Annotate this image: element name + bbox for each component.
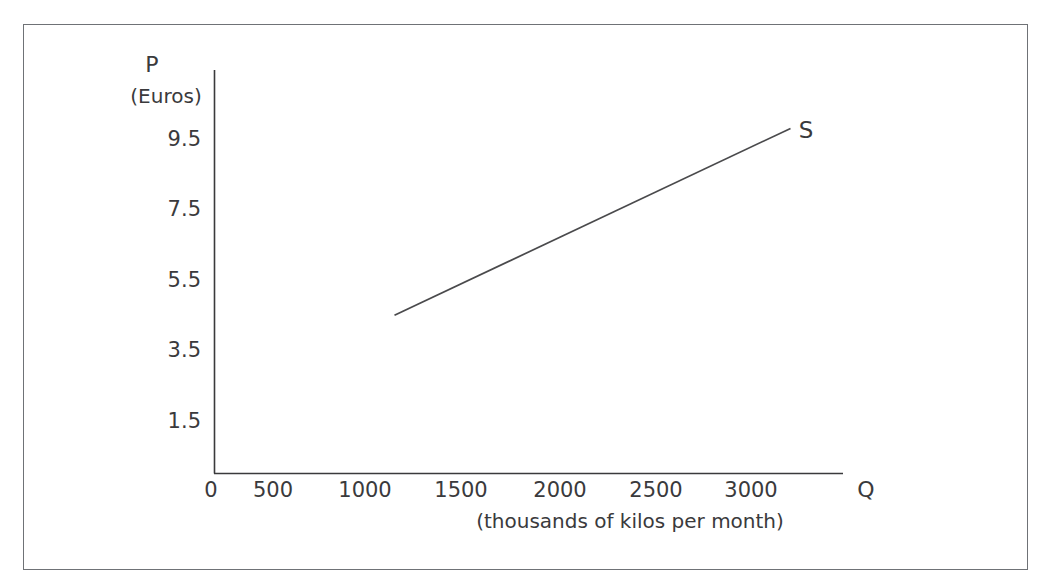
y-tick-label-9-5: 9.5	[141, 127, 201, 151]
figure-root: P (Euros) 9.5 7.5 5.5 3.5 1.5 0 500 1000…	[0, 0, 1050, 587]
x-tick-label-500: 500	[253, 478, 293, 502]
x-axis-title: Q	[857, 477, 874, 502]
x-tick-label-1000: 1000	[338, 478, 391, 502]
supply-curve-label: S	[799, 117, 814, 143]
y-tick-label-7-5: 7.5	[141, 197, 201, 221]
y-axis-units: (Euros)	[130, 84, 201, 108]
y-tick-label-3-5: 3.5	[141, 338, 201, 362]
x-tick-label-2500: 2500	[629, 478, 682, 502]
y-tick-label-1-5: 1.5	[141, 409, 201, 433]
x-tick-label-1500: 1500	[434, 478, 487, 502]
x-tick-label-2000: 2000	[533, 478, 586, 502]
y-axis-title: P	[145, 52, 158, 77]
y-tick-label-5-5: 5.5	[141, 268, 201, 292]
x-axis-units: (thousands of kilos per month)	[476, 509, 784, 533]
x-tick-label-0: 0	[204, 478, 217, 502]
supply-curve-line	[395, 128, 791, 315]
x-tick-label-3000: 3000	[724, 478, 777, 502]
